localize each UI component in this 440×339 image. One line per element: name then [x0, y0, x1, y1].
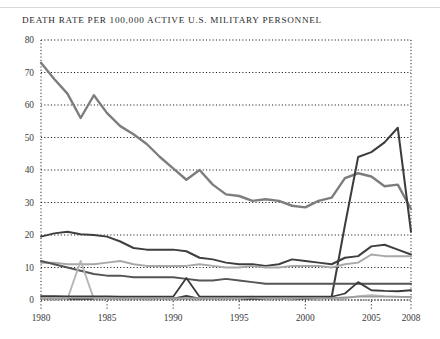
y-axis-tick-label: 50: [25, 133, 35, 143]
x-axis-tick-label: 1980: [32, 313, 51, 323]
line-chart-svg: 0102030405060708019801985199019952000200…: [0, 0, 440, 339]
series-line-total-death-rate: [41, 63, 411, 209]
x-axis-tick-label: 1995: [230, 313, 249, 323]
y-axis-tick-label: 60: [25, 100, 35, 110]
x-axis-tick-label: 2008: [402, 313, 421, 323]
series-line-hostile-action-deaths: [41, 128, 411, 299]
series-line-accident-deaths: [41, 232, 411, 266]
x-axis-tick-label: 1990: [164, 313, 183, 323]
y-axis-tick-label: 0: [29, 295, 34, 305]
y-axis-tick-label: 20: [25, 230, 35, 240]
y-axis-tick-label: 80: [25, 35, 35, 45]
y-axis-tick-label: 70: [25, 68, 35, 78]
x-axis-tick-label: 2000: [296, 313, 315, 323]
chart-page: DEATH RATE PER 100,000 ACTIVE U.S. MILIT…: [0, 0, 440, 339]
y-axis-tick-label: 30: [25, 198, 35, 208]
y-axis-tick-label: 40: [25, 165, 35, 175]
series-line-homicide-deaths: [41, 278, 411, 297]
chart-plot-area: 0102030405060708019801985199019952000200…: [0, 0, 440, 339]
x-axis-tick-label: 2005: [362, 313, 381, 323]
x-axis-tick-label: 1985: [98, 313, 117, 323]
y-axis-tick-label: 10: [25, 263, 35, 273]
